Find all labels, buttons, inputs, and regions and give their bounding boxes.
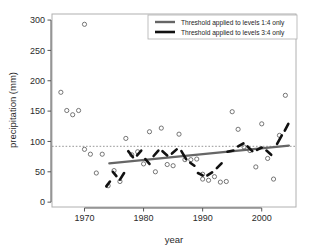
x-axis-title: year <box>165 234 183 245</box>
x-tick-label: 1980 <box>134 213 154 223</box>
x-tick-label: 2000 <box>252 213 272 223</box>
y-tick-label: 0 <box>40 197 45 207</box>
x-tick-label: 1970 <box>74 213 94 223</box>
y-tick-label: 250 <box>30 46 45 56</box>
y-tick-label: 200 <box>30 76 45 86</box>
legend-label-levels-3-4: Threshold applied to levels 3:4 only <box>181 29 285 37</box>
chart-figure: 050100150200250300 1970198019902000 prec… <box>0 0 310 251</box>
y-tick-label: 100 <box>30 137 45 147</box>
y-tick-label: 150 <box>30 106 45 116</box>
precipitation-scatter-chart: 050100150200250300 1970198019902000 prec… <box>0 0 310 251</box>
legend-label-levels-1-4: Threshold applied to levels 1:4 only <box>181 19 285 27</box>
x-tick-label: 1990 <box>193 213 213 223</box>
y-tick-label: 300 <box>30 15 45 25</box>
legend: Threshold applied to levels 1:4 only Thr… <box>148 15 297 39</box>
y-axis-title: precipitation (mm) <box>7 72 18 148</box>
y-tick-label: 50 <box>35 167 45 177</box>
